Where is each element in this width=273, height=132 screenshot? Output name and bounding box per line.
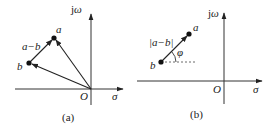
point-b <box>26 60 31 65</box>
label-sigma: σ <box>253 83 259 95</box>
panel-b: a b |a−b| φ jω σ O (b) <box>137 7 262 121</box>
angle-arc <box>172 52 176 62</box>
label-jw: jω <box>207 7 219 19</box>
point-a <box>51 35 56 40</box>
caption-a: (a) <box>62 111 75 124</box>
label-sigma: σ <box>112 90 118 102</box>
caption-b: (b) <box>190 108 203 121</box>
label-origin: O <box>80 90 88 102</box>
label-origin: O <box>213 83 221 95</box>
label-a: a <box>193 21 199 33</box>
point-a <box>186 31 191 36</box>
point-b <box>158 59 163 64</box>
label-a-minus-b: a−b <box>22 40 41 52</box>
label-phi: φ <box>177 46 183 58</box>
panel-a: a b a−b jω σ O (a) <box>15 3 123 124</box>
label-magnitude: |a−b| <box>149 36 173 48</box>
complex-plane-figure: a b a−b jω σ O (a) a b |a−b| φ jω σ O (b… <box>0 0 273 132</box>
label-jw: jω <box>70 3 82 15</box>
label-a: a <box>56 23 62 35</box>
label-b: b <box>17 60 23 72</box>
label-b: b <box>150 59 156 71</box>
